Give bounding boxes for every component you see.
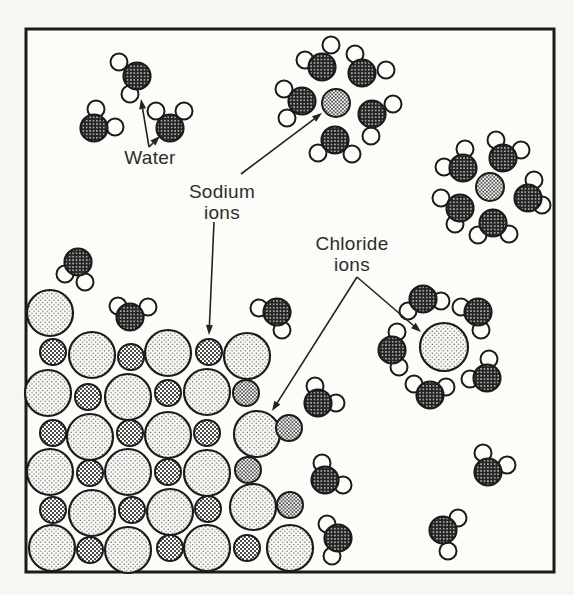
label-line: Water [124, 147, 175, 168]
oxygen-atom [417, 382, 444, 409]
chloride-ion [234, 411, 280, 457]
oxygen-atom [322, 127, 349, 154]
sodium-ion [233, 380, 259, 406]
hydrogen-atom [107, 119, 124, 136]
water-label: Water [124, 147, 175, 168]
hydrogen-atom [378, 62, 395, 79]
illustration-canvas [0, 0, 574, 595]
chloride-ion [184, 525, 230, 571]
hydrogen-atom [385, 96, 402, 113]
chloride-ion [69, 490, 115, 536]
chloride-ion [184, 369, 230, 415]
sodium-ion [119, 497, 145, 523]
chloride-ion [267, 525, 313, 571]
oxygen-atom [515, 185, 542, 212]
sodium-ion [195, 496, 221, 522]
oxygen-atom [81, 115, 108, 142]
oxygen-atom [447, 195, 474, 222]
oxygen-atom [430, 517, 457, 544]
chloride-ion [25, 370, 71, 416]
chloride-ions-label: Chloride ions [315, 233, 388, 275]
oxygen-atom [349, 60, 376, 87]
chloride-ion [224, 333, 270, 379]
sodium-ion [196, 339, 222, 365]
sodium-ion [157, 535, 183, 561]
chloride-ion [145, 330, 191, 376]
chloride-ion [147, 489, 193, 535]
oxygen-atom [474, 365, 501, 392]
sodium-ion [322, 89, 350, 117]
oxygen-atom [309, 54, 336, 81]
oxygen-atom [490, 145, 517, 172]
chloride-ion [230, 484, 276, 530]
chloride-ion [27, 290, 73, 336]
chloride-ion [105, 449, 151, 495]
sodium-ion [77, 537, 103, 563]
hydrogen-atom [363, 128, 380, 145]
label-line: Sodium [189, 181, 255, 202]
chloride-ion [105, 527, 151, 573]
oxygen-atom [379, 337, 406, 364]
sodium-ion [234, 535, 260, 561]
hydrogen-atom [323, 37, 340, 54]
label-line: ions [189, 202, 255, 223]
sodium-ion [118, 344, 144, 370]
oxygen-atom [305, 390, 332, 417]
sodium-ion [276, 415, 302, 441]
oxygen-atom [264, 299, 291, 326]
oxygen-atom [480, 210, 507, 237]
chloride-ion [420, 323, 468, 371]
oxygen-atom [450, 155, 477, 182]
sodium-ion [277, 492, 303, 518]
nacl-dissolving-figure: Water Sodium ions Chloride ions [0, 0, 574, 595]
chloride-ion [69, 332, 115, 378]
sodium-ions-label: Sodium ions [189, 181, 255, 223]
label-line: Chloride [315, 233, 388, 254]
oxygen-atom [325, 525, 352, 552]
sodium-ion [476, 173, 504, 201]
oxygen-atom [359, 101, 386, 128]
sodium-ion [155, 459, 181, 485]
chloride-ion [105, 374, 151, 420]
chloride-ion [145, 412, 191, 458]
oxygen-atom [157, 115, 184, 142]
chloride-ion [67, 414, 113, 460]
oxygen-atom [65, 249, 92, 276]
sodium-ion [77, 460, 103, 486]
sodium-ion [40, 497, 66, 523]
sodium-ion [117, 420, 143, 446]
sodium-ion [40, 420, 66, 446]
oxygen-atom [124, 63, 151, 90]
oxygen-atom [475, 459, 502, 486]
sodium-ion [194, 420, 220, 446]
chloride-ion [184, 450, 230, 496]
hydrogen-atom [440, 543, 457, 560]
oxygen-atom [465, 299, 492, 326]
sodium-ion [235, 457, 261, 483]
oxygen-atom [117, 304, 144, 331]
sodium-ion [75, 384, 101, 410]
sodium-ion [155, 380, 181, 406]
chloride-ion [27, 449, 73, 495]
sodium-ion [40, 339, 66, 365]
label-line: ions [315, 254, 388, 275]
oxygen-atom [312, 467, 339, 494]
oxygen-atom [410, 286, 437, 313]
chloride-ion [29, 525, 75, 571]
oxygen-atom [289, 88, 316, 115]
